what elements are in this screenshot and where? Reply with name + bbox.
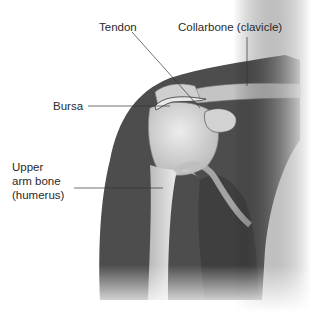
label-collarbone: Collarbone (clavicle) — [178, 20, 282, 34]
shoulder-illustration — [0, 0, 311, 312]
label-tendon: Tendon — [99, 20, 137, 34]
shoulder-anatomy-diagram: Tendon Collarbone (clavicle) Bursa Upper… — [0, 0, 311, 312]
label-humerus: Upper arm bone (humerus) — [12, 160, 64, 202]
label-bursa: Bursa — [53, 99, 83, 113]
